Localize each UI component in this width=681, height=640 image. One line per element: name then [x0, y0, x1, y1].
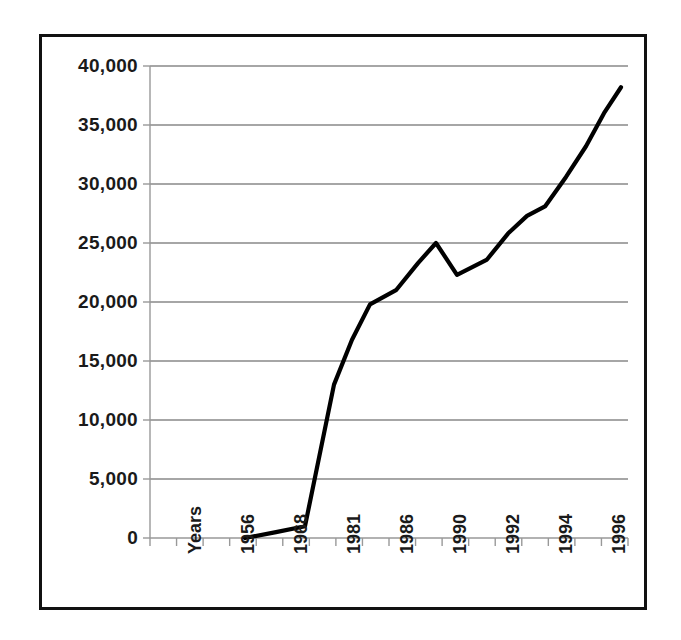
x-tick-label: 1986 [397, 514, 418, 554]
x-tick-label: Years [185, 506, 206, 554]
x-tick-label: 1981 [344, 514, 365, 554]
y-tick-label: 25,000 [55, 232, 138, 254]
x-tick-label: 1990 [450, 514, 471, 554]
y-tick-label: 15,000 [55, 350, 138, 372]
x-tick-label: 1992 [503, 514, 524, 554]
x-tick-label: 1968 [291, 514, 312, 554]
y-tick-label: 35,000 [55, 114, 138, 136]
y-tick-label: 20,000 [55, 291, 138, 313]
y-tick-label: 0 [55, 527, 138, 549]
chart-figure: 40,00035,00030,00025,00020,00015,00010,0… [0, 0, 681, 640]
y-tick-label: 5,000 [55, 468, 138, 490]
x-tick-label: 1996 [609, 514, 630, 554]
x-tick-label: 1994 [556, 514, 577, 554]
y-tick-label: 10,000 [55, 409, 138, 431]
x-tick-label: 1956 [238, 514, 259, 554]
y-tick-label: 30,000 [55, 173, 138, 195]
y-tick-label: 40,000 [55, 55, 138, 77]
